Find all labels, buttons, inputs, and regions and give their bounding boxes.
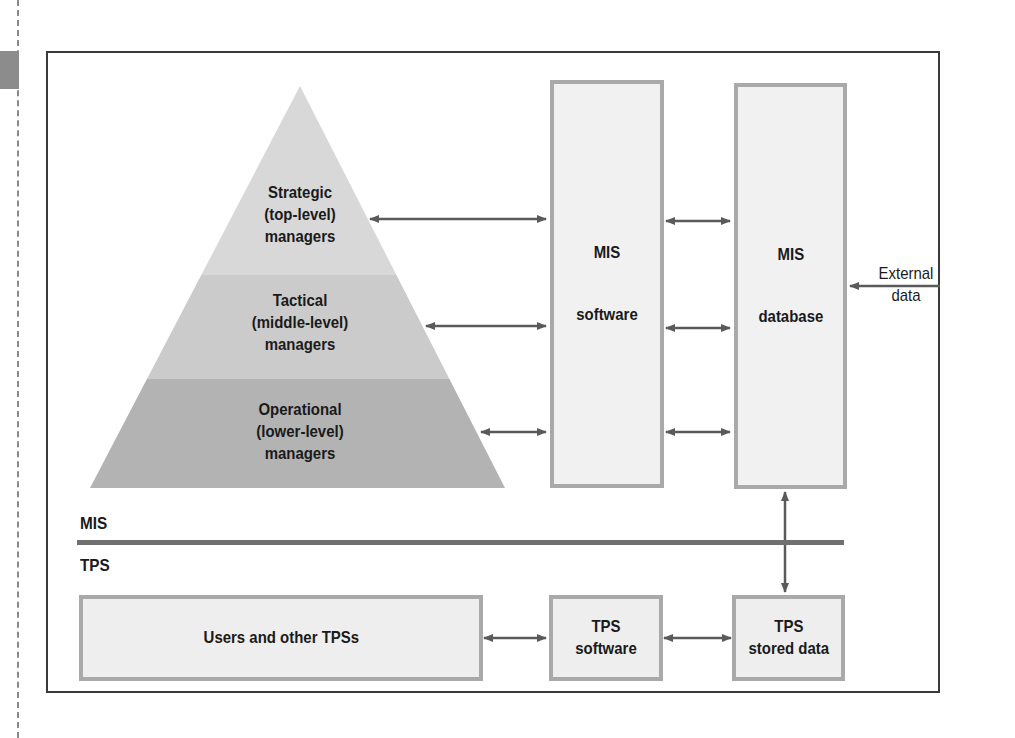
pyramid-label-strategic: Strategic(top-level)managers: [247, 182, 353, 248]
users-box-label: Users and other TPSs: [203, 627, 358, 649]
mis-layer-label: MIS: [80, 514, 107, 534]
pyramid-label-tactical: Tactical(middle-level)managers: [234, 290, 366, 356]
tps-software-label: TPS software: [575, 616, 637, 660]
tps-layer-label: TPS: [80, 556, 110, 576]
mis-software-box: MISsoftware: [550, 80, 664, 488]
users-and-other-tps-box: Users and other TPSs: [79, 595, 483, 681]
tps-stored-data-label: TPS stored data: [748, 616, 829, 660]
tps-software-box: TPS software: [549, 595, 663, 681]
pyramid-label-operational: Operational(lower-level)managers: [238, 399, 361, 465]
mis-tps-separator: [77, 540, 844, 545]
mis-database-box: MISdatabase: [734, 83, 847, 489]
tps-stored-data-box: TPS stored data: [732, 595, 845, 681]
external-data-label: Externaldata: [871, 263, 941, 307]
